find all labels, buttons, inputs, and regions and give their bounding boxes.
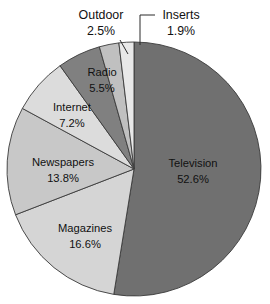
slice-label-magazines: Magazines [58,222,113,234]
pie-chart: Television52.6%Magazines16.6%Newspapers1… [0,0,270,304]
slice-value-magazines: 16.6% [69,238,101,250]
slice-label-radio: Radio [87,66,116,78]
pie-chart-svg: Television52.6%Magazines16.6%Newspapers1… [0,0,270,304]
pie-slices-group [7,42,261,296]
slice-label-outdoor: Outdoor [79,8,124,22]
pie-slice-television[interactable] [114,42,261,296]
slice-value-internet: 7.2% [59,117,85,129]
slice-label-internet: Internet [53,101,92,113]
slice-value-radio: 5.5% [89,82,115,94]
slice-value-television: 52.6% [177,173,209,185]
leader-line-inserts [140,15,155,45]
slice-value-outdoor: 2.5% [87,24,115,38]
slice-label-newspapers: Newspapers [32,156,95,168]
slice-label-television: Television [168,157,217,169]
slice-label-inserts: Inserts [162,8,199,22]
slice-value-inserts: 1.9% [167,24,195,38]
slice-value-newspapers: 13.8% [47,172,79,184]
